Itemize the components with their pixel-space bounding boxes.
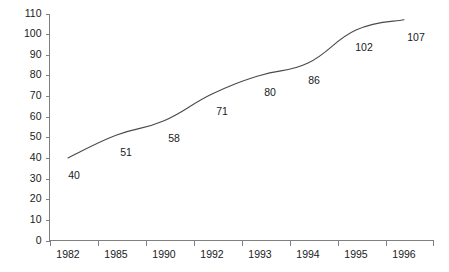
y-tick-label: 0 [36,234,42,246]
y-tick-label: 70 [30,89,42,101]
data-point-label: 58 [168,132,180,144]
x-tick-label: 1996 [392,248,416,260]
x-tick-label: 1982 [56,248,80,260]
series-line [68,20,404,158]
y-tick-labels: 1101009080706050403020100 [24,7,42,246]
y-tick-label: 10 [30,213,42,225]
y-tick-label: 90 [30,48,42,60]
x-tick-label: 1993 [248,248,272,260]
x-tick-labels: 19821985199019921993199419951996 [56,248,416,260]
data-point-label: 51 [120,146,132,158]
y-tick-label: 20 [30,192,42,204]
y-tick-label: 80 [30,68,42,80]
chart-canvas: 1101009080706050403020100 19821985199019… [0,0,449,272]
data-point-labels: 405158718086102107 [68,31,425,181]
y-tick-label: 40 [30,151,42,163]
x-tick-marks [51,241,434,246]
y-tick-label: 110 [25,7,42,19]
data-point-label: 86 [308,74,320,86]
x-tick-label: 1992 [200,248,224,260]
y-axis: 1101009080706050403020100 [24,7,50,246]
data-point-label: 71 [216,105,228,117]
line-chart: 1101009080706050403020100 19821985199019… [0,0,449,272]
data-point-label: 40 [68,169,80,181]
x-axis: 19821985199019921993199419951996 [50,241,434,260]
y-tick-marks [46,15,50,242]
y-tick-label: 30 [30,172,42,184]
data-point-label: 107 [407,31,425,43]
y-tick-label: 50 [30,130,42,142]
x-tick-label: 1990 [152,248,176,260]
data-point-label: 102 [355,41,373,53]
y-tick-label: 60 [30,110,42,122]
data-point-label: 80 [264,86,276,98]
x-tick-label: 1995 [344,248,368,260]
x-tick-label: 1985 [104,248,128,260]
y-tick-label: 100 [24,27,42,39]
x-tick-label: 1994 [296,248,320,260]
